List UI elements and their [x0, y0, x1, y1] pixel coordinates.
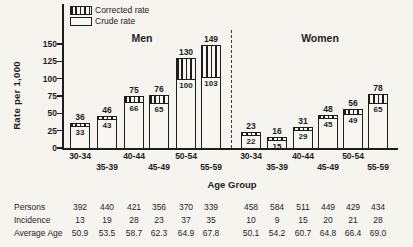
- bar-total-label: 16: [263, 127, 291, 136]
- bar-total-label: 36: [66, 113, 94, 122]
- table-cell: 67.8: [196, 228, 226, 238]
- group-title-men: Men: [112, 32, 172, 44]
- bar-corrected-segment: [202, 46, 220, 78]
- y-axis-tick: [57, 61, 62, 63]
- y-axis-tick: [57, 147, 62, 149]
- x-tick-label: 50-54: [337, 151, 369, 161]
- bar-crude-label: 22: [242, 136, 260, 146]
- y-axis-tick: [57, 95, 62, 97]
- x-tick-label: 35-39: [261, 162, 293, 172]
- bar: 100: [176, 58, 196, 148]
- bar-total-label: 23: [237, 122, 265, 131]
- bar: 22: [241, 132, 261, 148]
- bar-crude-label: 29: [294, 131, 312, 141]
- bar-crude-label: 15: [268, 141, 286, 151]
- table-cell: 19: [92, 215, 122, 225]
- legend-label-crude: Crude rate: [95, 16, 135, 27]
- table-cell: 50.9: [65, 228, 95, 238]
- bar-total-label: 46: [93, 106, 121, 115]
- bar-total-label: 75: [120, 86, 148, 95]
- group-title-women: Women: [290, 32, 350, 44]
- bar-crude-label: 65: [369, 104, 387, 114]
- y-tick-label: 75: [30, 91, 57, 101]
- table-row-label: Average Age: [14, 228, 63, 238]
- table-cell: 28: [363, 215, 393, 225]
- y-tick-label: 0: [30, 143, 57, 153]
- table-cell: 392: [65, 202, 95, 212]
- table-cell: 434: [363, 202, 393, 212]
- men-women-divider-dashed-line: [231, 30, 232, 148]
- bar: 65: [368, 94, 388, 148]
- x-tick-label: 30-34: [64, 151, 96, 161]
- bar-total-label: 78: [364, 84, 392, 93]
- bar-total-label: 31: [289, 117, 317, 126]
- table-cell: 69.0: [363, 228, 393, 238]
- x-tick-label: 55-59: [195, 162, 227, 172]
- y-axis-tick: [57, 130, 62, 132]
- x-tick-label: 40-44: [287, 151, 319, 161]
- y-tick-label: 125: [30, 56, 57, 66]
- bar: 65: [149, 95, 169, 148]
- bar-crude-label: 49: [344, 115, 362, 125]
- bar-total-label: 149: [197, 35, 225, 44]
- y-axis-title: Rate per 1,000: [10, 41, 23, 151]
- y-axis-tick: [57, 78, 62, 80]
- bar-crude-label: 103: [202, 78, 220, 88]
- bar: 29: [293, 127, 313, 148]
- y-tick-label: 150: [30, 39, 57, 49]
- bar: 15: [267, 137, 287, 148]
- x-tick-label: 50-54: [170, 151, 202, 161]
- bar: 45: [318, 115, 338, 148]
- bar: 103: [201, 45, 221, 148]
- x-axis-line: [62, 148, 398, 150]
- x-tick-label: 45-49: [312, 162, 344, 172]
- bar: 66: [124, 96, 144, 148]
- bar: 49: [343, 109, 363, 148]
- y-tick-label: 100: [30, 74, 57, 84]
- bar-crude-label: 65: [150, 104, 168, 114]
- x-tick-label: 30-34: [235, 151, 267, 161]
- x-tick-label: 55-59: [362, 162, 394, 172]
- figure: Rate per 1,000 Corrected rate Crude rate…: [0, 0, 413, 247]
- y-axis-tick: [57, 113, 62, 115]
- bar: 43: [97, 116, 117, 148]
- table-cell: 13: [65, 215, 95, 225]
- bar-total-label: 130: [172, 48, 200, 57]
- table-row-label: Incidence: [14, 215, 50, 225]
- bar-total-label: 76: [145, 85, 173, 94]
- bar-crude-label: 66: [125, 103, 143, 113]
- table-cell: 62.3: [144, 228, 174, 238]
- bar-crude-label: 100: [177, 80, 195, 90]
- x-tick-label: 45-49: [143, 162, 175, 172]
- table-cell: 356: [144, 202, 174, 212]
- x-axis-title: Age Group: [198, 179, 266, 191]
- legend-label-corrected: Corrected rate: [95, 5, 149, 16]
- x-tick-label: 40-44: [118, 151, 150, 161]
- table-cell: 440: [92, 202, 122, 212]
- bar: 33: [70, 123, 90, 148]
- y-axis-line: [62, 4, 64, 149]
- y-axis-tick: [57, 43, 62, 45]
- bar-corrected-segment: [177, 59, 195, 80]
- table-cell: 23: [144, 215, 174, 225]
- bar-crude-label: 33: [71, 127, 89, 137]
- table-cell: 35: [196, 215, 226, 225]
- corrected-rate-swatch-icon: [70, 6, 92, 15]
- crude-rate-swatch-icon: [70, 17, 92, 26]
- bar-corrected-segment: [150, 96, 168, 104]
- y-tick-label: 25: [30, 126, 57, 136]
- bar-total-label: 48: [314, 105, 342, 114]
- table-cell: 339: [196, 202, 226, 212]
- y-tick-label: 50: [30, 108, 57, 118]
- x-tick-label: 35-39: [91, 162, 123, 172]
- bar-total-label: 56: [339, 99, 367, 108]
- table-cell: 53.5: [92, 228, 122, 238]
- bar-crude-label: 45: [319, 119, 337, 129]
- bar-corrected-segment: [369, 95, 387, 104]
- bar-crude-label: 43: [98, 120, 116, 130]
- table-row-label: Persons: [14, 202, 45, 212]
